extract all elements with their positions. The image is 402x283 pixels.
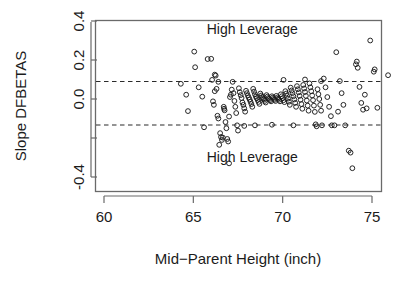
x-tick-label: 75: [364, 208, 381, 225]
y-axis-title: Slope DFBETAS: [12, 51, 29, 162]
scatter-plot-figure: -0.40.00.20.4 60657075 High LeverageHigh…: [0, 0, 402, 283]
y-tick-label: 0.2: [70, 50, 87, 71]
x-tick-label: 60: [96, 208, 113, 225]
y-tick-label: -0.4: [70, 164, 87, 190]
x-tick-label: 70: [274, 208, 291, 225]
annotation-high-leverage-upper: High Leverage: [207, 21, 298, 37]
x-axis-title: Mid−Parent Height (inch): [155, 250, 321, 267]
plot-background: [0, 0, 402, 283]
x-tick-label: 65: [185, 208, 202, 225]
y-tick-label: 0.4: [70, 11, 87, 32]
annotation-high-leverage-lower: High Leverage: [207, 149, 298, 165]
chart-canvas: -0.40.00.20.4 60657075 High LeverageHigh…: [0, 0, 402, 283]
y-tick-label: 0.0: [70, 89, 87, 110]
